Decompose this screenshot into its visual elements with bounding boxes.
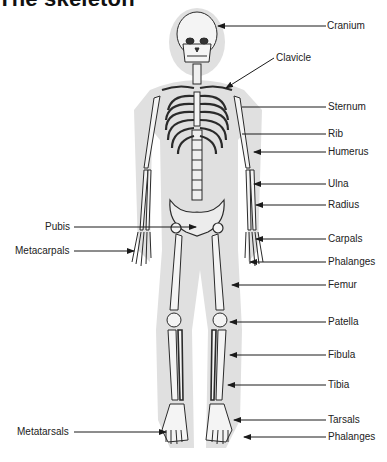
label-pubis: Pubis [45, 221, 70, 233]
label-carpals: Carpals [328, 233, 362, 245]
spine [192, 64, 202, 200]
label-tarsals: Tarsals [328, 414, 360, 426]
label-rib: Rib [328, 128, 343, 140]
label-cranium: Cranium [327, 20, 365, 32]
label-humerus: Humerus [328, 146, 369, 158]
label-metacarpals: Metacarpals [15, 245, 69, 257]
label-sternum: Sternum [328, 101, 366, 113]
label-clavicle: Clavicle [276, 52, 311, 64]
label-femur: Femur [328, 279, 357, 291]
label-phalanges-foot: Phalanges [328, 431, 375, 443]
label-metatarsals: Metatarsals [17, 426, 69, 438]
label-fibula: Fibula [328, 349, 355, 361]
label-ulna: Ulna [328, 178, 349, 190]
label-phalanges-hand: Phalanges [328, 256, 375, 268]
feet [162, 404, 232, 444]
label-radius: Radius [328, 199, 359, 211]
label-patella: Patella [328, 316, 359, 328]
label-tibia: Tibia [328, 379, 349, 391]
